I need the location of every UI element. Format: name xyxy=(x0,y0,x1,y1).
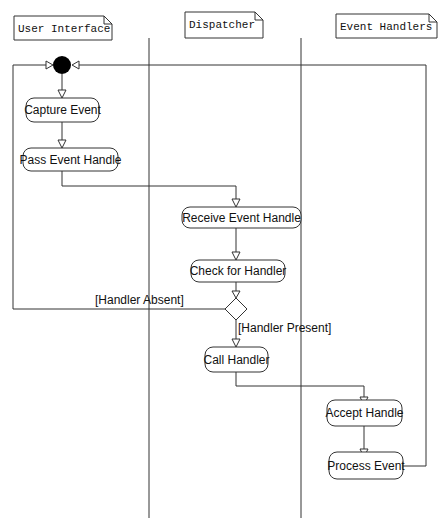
action-pass-event-handle: Pass Event Handle xyxy=(19,148,121,171)
svg-text:Receive Event Handle: Receive Event Handle xyxy=(182,211,301,225)
lane-note-event-handlers: Event Handlers xyxy=(336,14,437,38)
arrowhead-icon xyxy=(58,140,66,148)
svg-text:Accept Handle: Accept Handle xyxy=(325,406,403,420)
lane-label-user-interface: User Interface xyxy=(18,23,110,35)
svg-text:Capture Event: Capture Event xyxy=(24,103,101,117)
action-process-event: Process Event xyxy=(327,452,405,479)
guard-handler-absent: [Handler Absent] xyxy=(95,293,184,307)
activity-diagram: User Interface Dispatcher Event Handlers xyxy=(0,0,447,518)
arrowhead-icon xyxy=(46,61,53,69)
action-receive-event-handle: Receive Event Handle xyxy=(182,207,301,228)
decision-node xyxy=(225,298,247,320)
arrowhead-icon xyxy=(232,291,240,298)
guard-handler-present: [Handler Present] xyxy=(238,321,331,335)
lane-note-dispatcher: Dispatcher xyxy=(185,12,263,38)
edge-call-to-accept xyxy=(236,372,364,397)
arrowhead-icon xyxy=(58,90,66,98)
svg-text:Call Handler: Call Handler xyxy=(203,353,269,367)
lane-label-event-handlers: Event Handlers xyxy=(340,21,432,33)
action-accept-handle: Accept Handle xyxy=(325,400,403,426)
arrowhead-icon xyxy=(232,339,240,347)
lane-note-user-interface: User Interface xyxy=(14,16,112,40)
svg-text:Pass Event Handle: Pass Event Handle xyxy=(19,153,121,167)
arrowhead-icon xyxy=(232,199,240,207)
action-check-for-handler: Check for Handler xyxy=(190,260,287,282)
svg-text:Check for Handler: Check for Handler xyxy=(190,264,287,278)
arrowhead-icon xyxy=(232,252,240,260)
initial-node xyxy=(53,56,71,74)
action-capture-event: Capture Event xyxy=(24,98,101,122)
arrowhead-icon xyxy=(72,61,79,69)
action-call-handler: Call Handler xyxy=(203,347,269,372)
lane-label-dispatcher: Dispatcher xyxy=(189,19,255,31)
svg-text:Process Event: Process Event xyxy=(327,459,405,473)
